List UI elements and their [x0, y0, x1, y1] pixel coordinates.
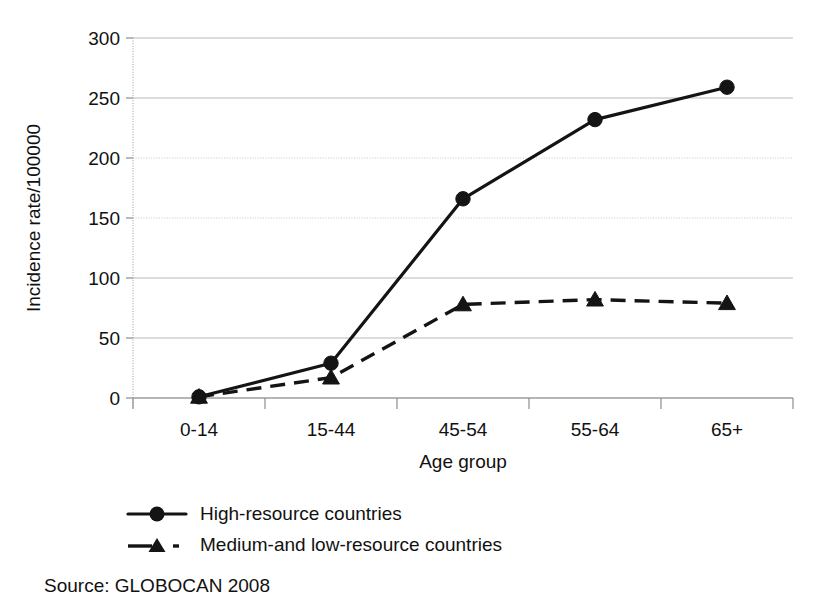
x-tick-label-55-64: 55-64 — [571, 419, 620, 440]
x-tick-label-45-54: 45-54 — [439, 419, 488, 440]
y-tick-label-100: 100 — [88, 268, 120, 289]
y-axis-title: Incidence rate/100000 — [23, 124, 44, 312]
data-point-1-15-44 — [324, 356, 338, 370]
y-tick-label-250: 250 — [88, 88, 120, 109]
y-axis-tick-labels: 050100150200250300 — [88, 28, 120, 409]
y-tick-label-200: 200 — [88, 148, 120, 169]
gridlines-group — [133, 38, 793, 398]
series-line-2 — [199, 300, 727, 397]
triangle-marker-icon — [126, 534, 188, 556]
data-point-1-45-54 — [456, 192, 470, 206]
circle-marker-icon — [126, 503, 188, 525]
legend-item-high-resource: High-resource countries — [126, 498, 646, 529]
x-tick-label-65+: 65+ — [711, 419, 743, 440]
data-series-group — [191, 80, 736, 404]
x-axis-tick-labels: 0-1415-4445-5455-6465+ — [180, 419, 743, 440]
chart-figure: 050100150200250300 0-1415-4445-5455-6465… — [0, 0, 831, 607]
y-tick-label-150: 150 — [88, 208, 120, 229]
legend-item-medium-low-resource: Medium-and low-resource countries — [126, 529, 646, 560]
series-line-1 — [199, 87, 727, 397]
y-tick-label-0: 0 — [109, 388, 120, 409]
line-chart: 050100150200250300 0-1415-4445-5455-6465… — [0, 0, 831, 490]
legend-label-medium-low-resource: Medium-and low-resource countries — [200, 534, 502, 556]
x-axis-title: Age group — [419, 451, 507, 472]
chart-legend: High-resource countries Medium-and low-r… — [126, 498, 646, 560]
source-note: Source: GLOBOCAN 2008 — [44, 575, 270, 597]
data-point-1-55-64 — [588, 112, 602, 126]
y-tick-label-50: 50 — [99, 328, 120, 349]
x-tick-label-15-44: 15-44 — [307, 419, 356, 440]
legend-label-high-resource: High-resource countries — [200, 503, 402, 525]
axes-group — [126, 38, 793, 409]
data-point-1-65+ — [720, 80, 734, 94]
y-tick-label-300: 300 — [88, 28, 120, 49]
data-point-2-15-44 — [323, 369, 340, 384]
x-tick-label-0-14: 0-14 — [180, 419, 218, 440]
